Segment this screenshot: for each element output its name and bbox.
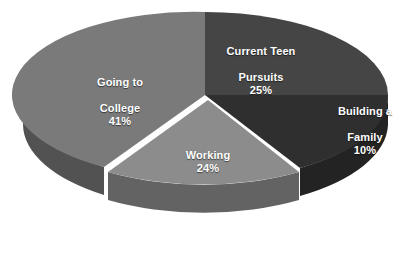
slice-label-line1: Current Teen	[227, 45, 296, 57]
pie-chart: Current Teen Pursuits 25% Building a Fam…	[0, 0, 414, 258]
slice-label-current-teen-pursuits: Current Teen Pursuits 25%	[209, 32, 313, 110]
slice-label-percent: 41%	[70, 115, 170, 128]
slice-label-working: Working 24%	[160, 136, 256, 188]
slice-label-percent: 10%	[318, 144, 412, 157]
slice-label-percent: 24%	[160, 162, 256, 175]
slice-label-line2: Family	[347, 131, 382, 143]
slice-label-building-a-family: Building a Family 10%	[318, 92, 412, 170]
slice-label-line1: Going to	[97, 76, 143, 88]
slice-label-percent: 25%	[209, 84, 313, 97]
slice-label-going-to-college: Going to College 41%	[70, 63, 170, 141]
slice-label-line1: Working	[186, 149, 231, 161]
slice-label-line1: Building a	[338, 105, 392, 117]
slice-label-line2: Pursuits	[239, 71, 284, 83]
slice-label-line2: College	[100, 102, 140, 114]
